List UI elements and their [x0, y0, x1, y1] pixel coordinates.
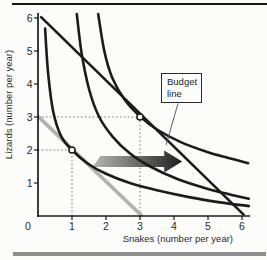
tangency-point — [137, 114, 143, 120]
budget-line-indifference-chart: 1234561234560 — [0, 0, 267, 260]
indifference-curve-low — [45, 29, 249, 207]
x-tick-label: 5 — [205, 220, 211, 232]
x-axis-title: Snakes (number per year) — [73, 233, 233, 244]
x-tick-label: 2 — [103, 220, 109, 232]
y-tick-label: 2 — [27, 144, 33, 156]
budget-line-callout-text-line1: Budget — [167, 76, 201, 88]
x-tick-label: 1 — [69, 220, 75, 232]
y-tick-label: 3 — [27, 111, 33, 123]
x-tick-label: 3 — [137, 220, 143, 232]
y-tick-label: 6 — [27, 12, 33, 24]
y-tick-label: 1 — [27, 177, 33, 189]
y-tick-label: 5 — [27, 45, 33, 57]
y-axis-title: Lizards (number per year) — [3, 37, 16, 173]
x-tick-label: 4 — [171, 220, 177, 232]
budget-line-callout: Budget line — [161, 73, 202, 103]
bottom-divider-bar — [13, 252, 266, 256]
origin-label: 0 — [25, 220, 31, 232]
rightward-shift-arrow — [93, 151, 183, 173]
budget-line-callout-text-line2: line — [167, 88, 201, 100]
tangency-point — [69, 147, 75, 153]
y-tick-label: 4 — [27, 78, 33, 90]
x-tick-label: 6 — [239, 220, 245, 232]
figure-page: 1234561234560 Lizards (number per year) … — [0, 0, 267, 260]
